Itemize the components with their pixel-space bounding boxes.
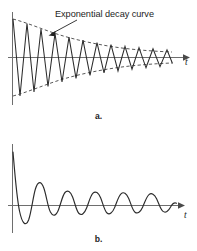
panel-a-upper-envelope (13, 19, 172, 52)
panel-a-leader-arrowhead (49, 31, 56, 36)
panel-a-x-axis-label: t (185, 57, 188, 67)
exponential-decay-curve-label: Exponential decay curve (55, 9, 154, 19)
figure-root: Exponential decay curve t a. t b. (0, 0, 197, 251)
panel-b-caption: b. (0, 234, 197, 244)
panel-b-plot (0, 125, 197, 251)
panel-b-wave (13, 152, 177, 224)
panel-a-caption: a. (0, 111, 197, 121)
panel-b-x-axis-arrowhead (178, 202, 185, 208)
panel-b-x-axis-label: t (184, 210, 187, 220)
